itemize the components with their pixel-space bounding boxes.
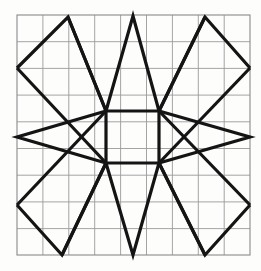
star-point-south	[106, 163, 159, 255]
central-square	[106, 111, 159, 163]
grid-border	[17, 15, 250, 255]
figure-canvas	[0, 0, 261, 271]
star-figure-svg	[0, 0, 261, 271]
star-layer	[17, 16, 250, 255]
grid-layer	[17, 15, 250, 255]
grid-lines	[17, 15, 250, 255]
star-point-northwest	[17, 17, 106, 111]
star-point-west	[17, 111, 106, 163]
star-point-north	[106, 16, 159, 111]
star-point-southwest	[17, 163, 106, 255]
